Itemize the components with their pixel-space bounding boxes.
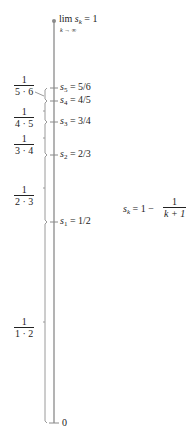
frac-num: 1 (163, 197, 186, 207)
series-diagram (0, 0, 191, 442)
s-sub: 4 (64, 99, 68, 107)
limit-label: lim sk = 1 (59, 14, 98, 26)
lim-text: lim (59, 13, 72, 24)
term-4x5: 1 4 · 5 (14, 107, 34, 129)
label-s3: s3 = 3/4 (60, 116, 91, 128)
label-s5: s5 = 5/6 (60, 82, 91, 94)
frac-num: 1 (14, 185, 34, 195)
term-brace (35, 88, 47, 423)
lim-under: k → ∞ (60, 27, 76, 33)
frac-den: 4 · 5 (14, 117, 34, 129)
s-value: 2/3 (78, 148, 91, 159)
s-value: 5/6 (78, 81, 91, 92)
s-sub: 5 (64, 86, 68, 94)
frac-den: 2 · 3 (14, 195, 34, 207)
frac-den: 5 · 6 (14, 85, 34, 97)
s-value: 4/5 (78, 94, 91, 105)
label-s2: s2 = 2/3 (60, 149, 91, 161)
s-sub: 3 (64, 120, 68, 128)
s-sub: 2 (64, 153, 68, 161)
label-s1: s1 = 1/2 (60, 216, 91, 228)
s-value: 3/4 (78, 115, 91, 126)
lim-var-sub: k (79, 18, 82, 26)
s-sub: 1 (64, 220, 68, 228)
formula-lhs-sub: k (127, 208, 130, 216)
frac-num: 1 (14, 317, 34, 327)
frac-num: 1 (14, 134, 34, 144)
limit-point (52, 19, 56, 23)
frac-den: k + 1 (163, 207, 186, 219)
formula: sk = 1 − (123, 204, 154, 216)
frac-num: 1 (14, 107, 34, 117)
lim-eq: = 1 (84, 13, 97, 24)
term-3x4: 1 3 · 4 (14, 134, 34, 156)
zero-label: 0 (62, 418, 67, 428)
term-2x3: 1 2 · 3 (14, 185, 34, 207)
s-value: 1/2 (78, 215, 91, 226)
label-s4: s4 = 4/5 (60, 95, 91, 107)
formula-fraction: 1 k + 1 (163, 197, 186, 219)
frac-num: 1 (14, 75, 34, 85)
frac-den: 1 · 2 (14, 327, 34, 339)
frac-den: 3 · 4 (14, 144, 34, 156)
term-1x2: 1 1 · 2 (14, 317, 34, 339)
formula-eq: = 1 − (133, 203, 154, 214)
term-5x6: 1 5 · 6 (14, 75, 34, 97)
